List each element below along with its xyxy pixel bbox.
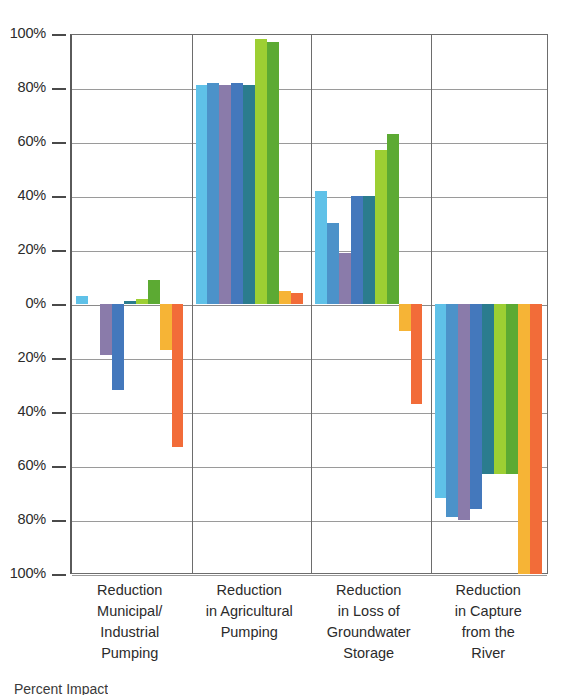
y-axis-tick (52, 250, 66, 252)
bar (279, 291, 291, 305)
y-axis-tick (52, 574, 66, 576)
bar (112, 304, 124, 390)
bar (458, 304, 470, 520)
x-axis-label-line: Reduction (190, 580, 310, 601)
x-axis-label-line: Reduction (70, 580, 190, 601)
y-axis-tick (52, 520, 66, 522)
chart-caption: Percent Impact (14, 681, 108, 695)
gridline (72, 521, 547, 522)
bar (172, 304, 184, 447)
bar (506, 304, 518, 474)
gridline (72, 575, 547, 576)
bar (207, 83, 219, 304)
bar (411, 304, 423, 404)
bar (267, 42, 279, 304)
y-axis-label: 100% (0, 26, 46, 41)
bar (148, 280, 160, 304)
y-axis-tick (52, 88, 66, 90)
bar (219, 85, 231, 304)
y-axis-tick (52, 412, 66, 414)
bar (470, 304, 482, 509)
y-axis-tick (52, 196, 66, 198)
x-axis-label-line: Reduction (309, 580, 429, 601)
bar (363, 196, 375, 304)
y-axis-label: 60% (0, 134, 46, 149)
gridline (72, 197, 547, 198)
x-axis-label-line: Groundwater (309, 622, 429, 643)
x-axis-label-line: in Capture (429, 601, 549, 622)
bar (351, 196, 363, 304)
bar (136, 299, 148, 304)
x-axis-label-line: Pumping (70, 643, 190, 664)
y-axis-tick (52, 304, 66, 306)
group-separator (192, 35, 193, 573)
bar (243, 85, 255, 304)
y-axis-label: 80% (0, 512, 46, 527)
group-separator (431, 35, 432, 573)
y-axis-label: 20% (0, 242, 46, 257)
bar (518, 304, 530, 574)
x-axis-label-line: Industrial (70, 622, 190, 643)
x-axis-category-labels: ReductionMunicipal/IndustrialPumpingRedu… (70, 580, 548, 680)
gridline (72, 143, 547, 144)
gridline (72, 89, 547, 90)
x-axis-label-line: from the (429, 622, 549, 643)
bar (231, 83, 243, 304)
bar (196, 85, 208, 304)
bar (327, 223, 339, 304)
bar (124, 301, 136, 304)
y-axis-tick (52, 466, 66, 468)
bar (530, 304, 542, 574)
x-axis-label-line: Storage (309, 643, 429, 664)
x-axis-category-label: Reductionin Loss ofGroundwaterStorage (309, 580, 429, 664)
x-axis-category-label: ReductionMunicipal/IndustrialPumping (70, 580, 190, 664)
y-axis-label: 80% (0, 80, 46, 95)
bar (387, 134, 399, 304)
bar-chart: 100%80%60%40%20%0%20%40%60%80%100% Reduc… (0, 0, 563, 695)
y-axis-label: 40% (0, 188, 46, 203)
x-axis-label-line: in Agricultural (190, 601, 310, 622)
bar (100, 304, 112, 355)
x-axis-category-label: Reductionin AgriculturalPumping (190, 580, 310, 643)
bar (494, 304, 506, 474)
x-axis-label-line: in Loss of (309, 601, 429, 622)
bar (76, 296, 88, 304)
bar (435, 304, 447, 498)
bar (315, 191, 327, 304)
y-axis-tick (52, 142, 66, 144)
y-axis-tick (52, 358, 66, 360)
gridline (72, 251, 547, 252)
x-axis-label-line: Reduction (429, 580, 549, 601)
x-axis-category-label: Reductionin Capturefrom theRiver (429, 580, 549, 664)
bar (255, 39, 267, 304)
x-axis-label-line: Pumping (190, 622, 310, 643)
group-separator (311, 35, 312, 573)
x-axis-label-line: River (429, 643, 549, 664)
bar (446, 304, 458, 517)
bar (482, 304, 494, 474)
bar (291, 293, 303, 304)
y-axis-label: 40% (0, 404, 46, 419)
y-axis-label: 20% (0, 350, 46, 365)
y-axis-label: 60% (0, 458, 46, 473)
bar (339, 253, 351, 304)
bar (399, 304, 411, 331)
bar (375, 150, 387, 304)
y-axis-label: 100% (0, 566, 46, 581)
bar (160, 304, 172, 350)
y-axis-label: 0% (0, 296, 46, 311)
x-axis-label-line: Municipal/ (70, 601, 190, 622)
y-axis-tick (52, 34, 66, 36)
